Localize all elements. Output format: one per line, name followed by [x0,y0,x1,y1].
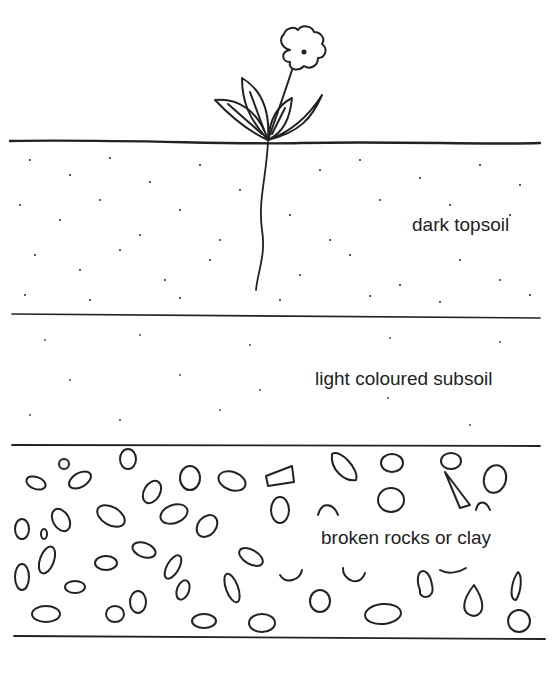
rock-bottom-boundary [14,636,545,639]
label-broken-rocks-or-clay: broken rocks or clay [321,527,491,549]
label-light-coloured-subsoil: light coloured subsoil [315,368,492,390]
soil-profile-diagram [0,0,555,673]
topsoil-subsoil-boundary [12,314,540,318]
plant-icon [215,26,325,290]
ground-surface-line [10,141,540,144]
label-dark-topsoil: dark topsoil [412,214,509,236]
subsoil-rock-boundary [12,445,540,446]
